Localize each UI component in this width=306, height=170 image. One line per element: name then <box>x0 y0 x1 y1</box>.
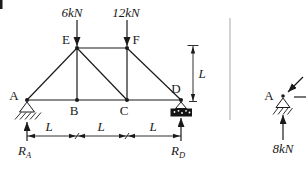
fbd-pin-support <box>273 98 293 115</box>
node-C-label: C <box>120 103 129 118</box>
fbd-node-A-label: A <box>264 88 274 103</box>
member-AE <box>27 48 77 100</box>
node-E-dot <box>75 46 79 50</box>
node-F-dot <box>125 46 129 50</box>
node-D-label: D <box>171 81 180 96</box>
height-L-label: L <box>198 66 206 81</box>
reaction-label-RD: RD <box>170 143 186 160</box>
node-C-dot <box>125 98 129 102</box>
rocker-support-D <box>171 102 193 117</box>
fbd-diagonal-force-arrow <box>288 77 303 92</box>
truss-diagram: A B C D E F 6kN 12kN <box>9 5 205 160</box>
joint-A-fbd: A 8kN <box>264 77 306 156</box>
node-A-label: A <box>9 88 19 103</box>
figure-canvas: A B C D E F 6kN 12kN <box>0 0 306 170</box>
load-label-12kN: 12kN <box>112 5 141 20</box>
span-dimension-line: L L L <box>27 119 181 139</box>
node-E-label: E <box>62 32 70 47</box>
span-L3-label: L <box>148 119 156 134</box>
span-L1-label: L <box>44 119 52 134</box>
fbd-reaction-label-8kN: 8kN <box>273 141 295 156</box>
crop-edge-mark <box>0 0 3 9</box>
truss-figure-svg: A B C D E F 6kN 12kN <box>0 0 306 170</box>
node-B-label: B <box>70 103 79 118</box>
pin-support-A <box>15 102 41 120</box>
height-dimension-line: L <box>188 46 206 102</box>
reaction-label-RA: RA <box>17 143 32 160</box>
load-label-6kN: 6kN <box>62 5 84 20</box>
member-EC <box>77 48 127 100</box>
node-F-label: F <box>132 32 139 47</box>
span-L2-label: L <box>96 119 104 134</box>
node-B-dot <box>75 98 79 102</box>
